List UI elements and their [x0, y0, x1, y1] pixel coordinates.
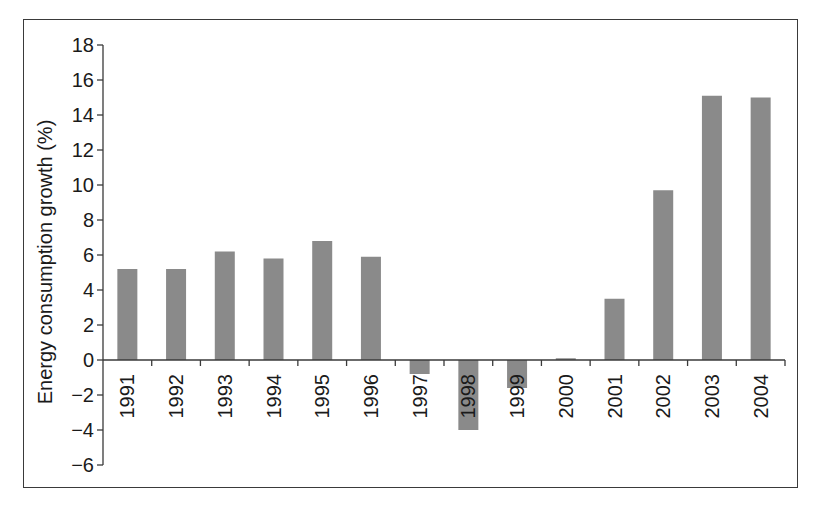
x-tick-label: 2001	[604, 374, 626, 419]
y-axis: 181614121086420−2−4−6	[71, 34, 103, 476]
y-axis-title: Energy consumption growth (%)	[34, 120, 56, 405]
bar-1994	[264, 259, 284, 361]
bar-1997	[410, 360, 430, 374]
y-tick-label: 14	[72, 104, 94, 126]
bar-2002	[653, 190, 673, 360]
x-tick-label: 2003	[701, 374, 723, 419]
y-tick-label: 6	[83, 244, 94, 266]
y-tick-label: 10	[72, 174, 94, 196]
x-tick-label: 2002	[652, 374, 674, 419]
x-tick-label: 1996	[360, 374, 382, 419]
bar-1996	[361, 257, 381, 360]
x-tick-label: 2000	[555, 374, 577, 419]
y-tick-label: 2	[83, 314, 94, 336]
y-tick-label: −6	[71, 454, 94, 476]
bar-2004	[751, 98, 771, 361]
y-tick-label: 16	[72, 69, 94, 91]
bar-2003	[702, 96, 722, 360]
y-tick-label: −2	[71, 384, 94, 406]
x-tick-label: 2004	[750, 374, 772, 419]
y-tick-label: 4	[83, 279, 94, 301]
bar-2001	[605, 299, 625, 360]
bar-1993	[215, 252, 235, 361]
bar-1991	[117, 269, 137, 360]
x-tick-label: 1994	[263, 374, 285, 419]
bar-1995	[312, 241, 332, 360]
y-tick-label: 8	[83, 209, 94, 231]
y-tick-label: 18	[72, 34, 94, 56]
bar-chart: Energy consumption growth (%) 1816141210…	[0, 0, 816, 510]
x-tick-label: 1997	[409, 374, 431, 419]
x-tick-label: 1993	[214, 374, 236, 419]
y-tick-label: −4	[71, 419, 94, 441]
y-tick-label: 12	[72, 139, 94, 161]
x-tick-label: 1995	[311, 374, 333, 419]
y-tick-label: 0	[83, 349, 94, 371]
y-axis-title-group: Energy consumption growth (%)	[34, 120, 56, 405]
x-tick-label: 1999	[506, 374, 528, 419]
bar-1992	[166, 269, 186, 360]
x-tick-label: 1991	[116, 374, 138, 419]
x-tick-label: 1992	[165, 374, 187, 419]
x-axis: 1991199219931994199519961997199819992000…	[103, 360, 785, 419]
x-tick-label: 1998	[457, 374, 479, 419]
